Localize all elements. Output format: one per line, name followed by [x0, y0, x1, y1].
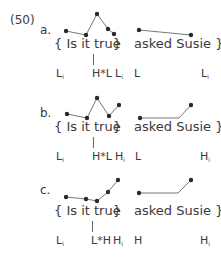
- pitch-dot: [189, 178, 193, 182]
- pitch-dot: [137, 191, 141, 195]
- pitch-dot: [137, 28, 141, 32]
- pitch-contours: [0, 0, 221, 259]
- pitch-dot: [106, 27, 110, 31]
- pitch-dot: [95, 12, 99, 16]
- pitch-dot: [138, 116, 142, 120]
- pitch-dot: [112, 32, 116, 36]
- pitch-dot: [116, 178, 120, 182]
- contour-panel-0: [64, 12, 193, 37]
- pitch-dot: [64, 195, 68, 199]
- pitch-dot: [84, 197, 88, 201]
- contour-panel-2: [64, 178, 193, 203]
- contour-line: [139, 30, 191, 35]
- contour-line: [66, 14, 114, 35]
- pitch-dot: [95, 199, 99, 203]
- pitch-dot: [65, 112, 69, 116]
- pitch-dot: [64, 29, 68, 33]
- contour-panel-1: [65, 96, 193, 120]
- pitch-dot: [117, 103, 121, 107]
- pitch-dot: [85, 116, 89, 120]
- pitch-dot: [95, 96, 99, 100]
- pitch-dot: [107, 114, 111, 118]
- contour-line: [140, 105, 191, 118]
- contour-line: [66, 180, 118, 201]
- pitch-dot: [189, 33, 193, 37]
- contour-line: [67, 98, 119, 118]
- contour-line: [139, 180, 191, 193]
- pitch-dot: [189, 103, 193, 107]
- pitch-dot: [106, 190, 110, 194]
- pitch-dot: [84, 33, 88, 37]
